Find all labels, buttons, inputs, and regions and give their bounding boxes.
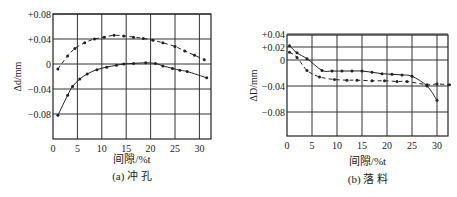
data-point-marker xyxy=(371,71,374,74)
data-point-marker xyxy=(436,83,439,86)
data-point-marker xyxy=(411,75,414,78)
x-tick-label: 25 xyxy=(407,140,417,151)
x-axis-label: 间隙/%t xyxy=(113,152,150,165)
data-point-marker xyxy=(71,85,74,88)
y-axis-label: Δd/mm xyxy=(12,61,23,91)
y-tick-label: +0.08 xyxy=(28,9,51,20)
x-tick-label: 30 xyxy=(432,140,442,151)
x-tick-label: 5 xyxy=(310,140,315,151)
data-point-marker xyxy=(371,79,374,82)
plot-frame xyxy=(53,14,211,139)
data-point-marker xyxy=(56,68,59,71)
y-tick-label: +0.04 xyxy=(262,29,285,40)
data-point-marker xyxy=(331,70,334,73)
data-point-marker xyxy=(351,70,354,73)
data-point-marker xyxy=(171,67,174,70)
y-tick-label: 0 xyxy=(280,55,285,66)
x-tick-label: 30 xyxy=(194,143,204,154)
data-point-marker xyxy=(122,34,125,37)
x-tick-label: 5 xyxy=(75,143,80,154)
data-point-marker xyxy=(306,69,309,72)
series-line-dashed xyxy=(290,52,450,85)
data-point-marker xyxy=(86,73,89,76)
x-tick-label: 10 xyxy=(332,140,342,151)
data-point-marker xyxy=(95,68,98,71)
data-point-marker xyxy=(174,45,177,48)
x-tick-label: 20 xyxy=(382,140,392,151)
data-point-marker xyxy=(161,41,164,44)
x-tick-label: 0 xyxy=(285,140,290,151)
data-point-marker xyxy=(122,63,125,66)
data-point-marker xyxy=(193,54,196,57)
data-point-marker xyxy=(406,80,409,83)
chart-b-blanking: 051015202530+0.04+0.020−0.04−0.08ΔD/mm间隙… xyxy=(248,29,451,187)
data-point-marker xyxy=(78,78,81,81)
data-point-marker xyxy=(436,99,439,102)
y-tick-label: 0 xyxy=(46,59,51,70)
data-point-marker xyxy=(93,38,96,41)
data-point-marker xyxy=(306,57,309,60)
data-point-marker xyxy=(142,37,145,40)
data-point-marker xyxy=(318,75,321,78)
y-tick-label: −0.08 xyxy=(28,109,51,120)
data-point-marker xyxy=(132,62,135,65)
data-point-marker xyxy=(346,79,349,82)
x-tick-label: 10 xyxy=(97,143,107,154)
data-point-marker xyxy=(203,58,206,61)
data-point-marker xyxy=(296,51,299,54)
data-point-marker xyxy=(296,56,299,59)
y-tick-label: +0.02 xyxy=(262,42,285,53)
data-point-marker xyxy=(391,73,394,76)
data-point-marker xyxy=(144,61,147,64)
data-point-marker xyxy=(113,34,116,37)
data-point-marker xyxy=(205,76,208,79)
chart-canvas: 051015202530+0.08+0.040−0.04−0.08Δd/mm间隙… xyxy=(0,0,457,197)
chart-caption: (b) 落 料 xyxy=(348,172,388,186)
data-point-marker xyxy=(132,36,135,39)
data-point-marker xyxy=(288,51,291,54)
data-point-marker xyxy=(321,69,324,72)
data-point-marker xyxy=(154,62,157,65)
data-point-marker xyxy=(83,41,86,44)
data-point-marker xyxy=(56,114,59,117)
data-point-marker xyxy=(73,47,76,50)
data-point-marker xyxy=(448,83,451,86)
y-axis-label: ΔD/mm xyxy=(248,69,259,101)
chart-caption: (a) 冲 孔 xyxy=(112,169,152,183)
data-point-marker xyxy=(361,70,364,73)
data-point-marker xyxy=(356,79,359,82)
data-point-marker xyxy=(105,66,108,69)
x-tick-label: 15 xyxy=(357,140,367,151)
data-point-marker xyxy=(333,78,336,81)
x-axis-label: 间隙/%t xyxy=(349,154,386,167)
y-tick-label: −0.04 xyxy=(28,84,51,95)
data-point-marker xyxy=(381,72,384,75)
x-tick-label: 25 xyxy=(170,143,180,154)
data-point-marker xyxy=(178,69,181,72)
y-tick-label: +0.04 xyxy=(28,34,51,45)
data-point-marker xyxy=(288,44,291,47)
data-point-marker xyxy=(66,94,69,97)
data-point-marker xyxy=(103,36,106,39)
data-point-marker xyxy=(401,73,404,76)
data-point-marker xyxy=(383,79,386,82)
chart-a-punching: 051015202530+0.08+0.040−0.04−0.08Δd/mm间隙… xyxy=(12,9,211,184)
data-point-marker xyxy=(426,83,429,86)
y-tick-label: −0.08 xyxy=(262,107,285,118)
data-point-marker xyxy=(152,39,155,42)
data-point-marker xyxy=(161,64,164,67)
y-tick-label: −0.04 xyxy=(262,81,285,92)
data-point-marker xyxy=(186,70,189,73)
data-point-marker xyxy=(115,64,118,67)
data-point-marker xyxy=(183,49,186,52)
x-tick-label: 0 xyxy=(51,143,56,154)
data-point-marker xyxy=(66,54,69,57)
data-point-marker xyxy=(396,80,399,83)
data-point-marker xyxy=(341,70,344,73)
